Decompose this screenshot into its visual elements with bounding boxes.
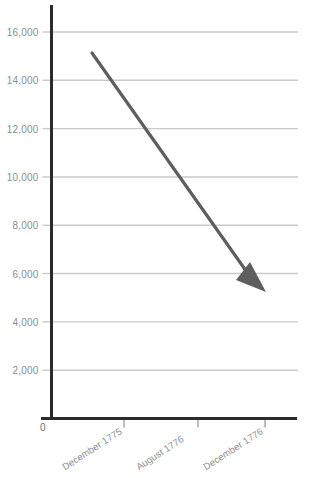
gridline-group: [43, 32, 299, 370]
y-tick-label: 14,000: [0, 75, 39, 86]
y-tick-label: 4,000: [0, 316, 39, 327]
arrow-head-triangle: [236, 262, 266, 292]
arrow-shaft-line: [92, 53, 249, 275]
chart-container: 2,0004,0006,0008,00010,00012,00014,00016…: [0, 0, 310, 478]
trend-arrow: [92, 53, 266, 292]
y-tick-label: 2,000: [0, 365, 39, 376]
y-tick-label: 12,000: [0, 123, 39, 134]
y-tick-label: 6,000: [0, 268, 39, 279]
chart-canvas: [0, 0, 310, 478]
y-tick-label: 8,000: [0, 220, 39, 231]
y-axis-origin-label: 0: [40, 422, 46, 433]
y-tick-label: 10,000: [0, 171, 39, 182]
y-tick-label: 16,000: [0, 27, 39, 38]
